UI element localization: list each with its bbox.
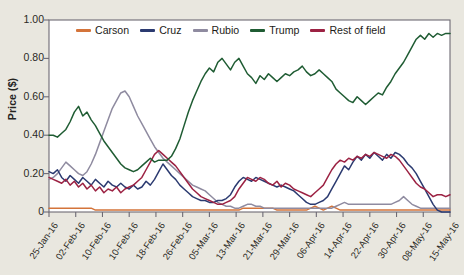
legend-swatch-icon — [250, 29, 265, 32]
legend-item-carson[interactable]: Carson — [76, 25, 129, 36]
legend-label: Carson — [95, 25, 129, 36]
legend-swatch-icon — [76, 29, 91, 32]
legend-item-rest-of-field[interactable]: Rest of field — [310, 25, 385, 36]
legend-item-rubio[interactable]: Rubio — [193, 25, 240, 36]
legend-label: Cruz — [159, 25, 181, 36]
legend-label: Rubio — [212, 25, 240, 36]
legend-label: Rest of field — [329, 25, 385, 36]
legend-swatch-icon — [140, 29, 155, 32]
legend-item-trump[interactable]: Trump — [250, 25, 299, 36]
legend-swatch-icon — [193, 29, 208, 32]
chart-figure: Price ($) 00.200.400.600.801.00 25-Jan-1… — [0, 0, 464, 275]
legend-label: Trump — [269, 25, 299, 36]
legend-item-cruz[interactable]: Cruz — [140, 25, 181, 36]
legend-swatch-icon — [310, 29, 325, 32]
chart-legend: CarsonCruzRubioTrumpRest of field — [76, 25, 385, 36]
